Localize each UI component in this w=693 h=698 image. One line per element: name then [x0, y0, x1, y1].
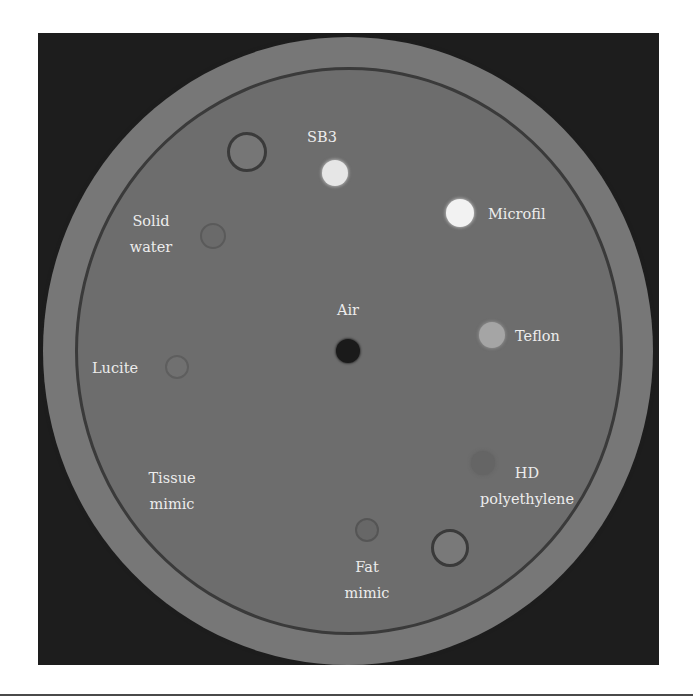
insert-teflon [479, 322, 505, 348]
bottom-divider [0, 694, 693, 696]
label-lucite: Lucite [92, 355, 138, 381]
insert-unlabeled-top [227, 132, 267, 172]
insert-sb3 [322, 160, 348, 186]
label-teflon: Teflon [515, 323, 560, 349]
insert-fat-mimic [355, 518, 379, 542]
label-tissue-mimic: Tissue mimic [148, 465, 195, 517]
label-fat-mimic: Fat mimic [345, 554, 390, 606]
label-fat-mimic-line1: Fat [345, 554, 390, 580]
label-hd-polyethylene: HD polyethylene [480, 460, 574, 512]
label-hd-polyethylene-line1: HD [480, 460, 574, 486]
label-solid-water-line1: Solid [130, 208, 172, 234]
label-hd-polyethylene-line2: polyethylene [480, 486, 574, 512]
insert-unlabeled-bottom [431, 529, 469, 567]
insert-solid-water [200, 223, 226, 249]
label-fat-mimic-line2: mimic [345, 580, 390, 606]
label-solid-water: Solid water [130, 208, 172, 260]
label-microfil: Microfil [488, 201, 546, 227]
label-solid-water-line2: water [130, 234, 172, 260]
insert-microfil [446, 199, 474, 227]
label-sb3: SB3 [307, 124, 337, 150]
insert-air [336, 339, 360, 363]
label-air: Air [337, 297, 359, 323]
label-tissue-mimic-line2: mimic [148, 491, 195, 517]
insert-lucite [165, 355, 189, 379]
label-tissue-mimic-line1: Tissue [148, 465, 195, 491]
